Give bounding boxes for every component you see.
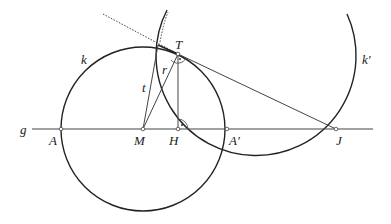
label-k: k	[81, 52, 87, 67]
point-M	[141, 127, 145, 131]
label-A: A	[48, 133, 57, 148]
point-J	[334, 127, 338, 131]
label-r: r	[162, 62, 168, 77]
circle-k-prime	[156, 10, 356, 156]
tangent-TJ	[178, 54, 336, 129]
label-J: J	[336, 133, 343, 148]
diagram-canvas: g A M H A′ J T k k′ t r	[0, 0, 391, 224]
segment-r	[143, 54, 178, 129]
label-t: t	[142, 80, 146, 95]
right-angle-dot-T	[179, 58, 181, 60]
right-angle-dot-H	[181, 124, 183, 126]
point-T	[176, 52, 180, 56]
label-A-prime: A′	[228, 133, 240, 148]
label-H: H	[168, 133, 179, 148]
label-M: M	[133, 133, 146, 148]
point-A-prime	[225, 127, 229, 131]
label-g: g	[20, 122, 27, 137]
point-A	[59, 127, 63, 131]
label-k-prime: k′	[362, 52, 371, 67]
point-H	[176, 127, 180, 131]
tangent-dotted-extension	[103, 14, 178, 54]
label-T: T	[175, 37, 183, 52]
geometry-diagram: g A M H A′ J T k k′ t r	[0, 0, 391, 224]
